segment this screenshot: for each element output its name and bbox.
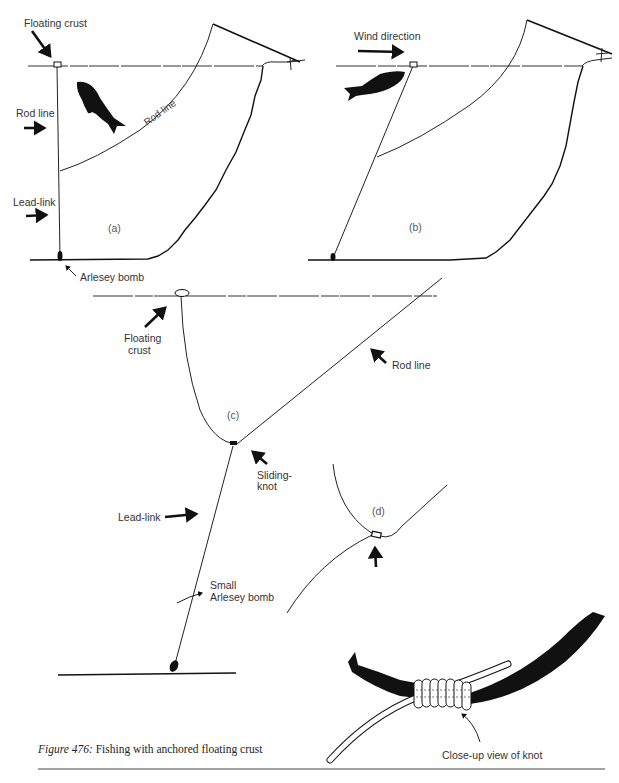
label-lead-link-a: Lead-link <box>13 196 56 208</box>
arrow-small-bomb <box>177 593 202 603</box>
label-small-bomb-2: Arlesey bomb <box>210 591 274 603</box>
fishing-rod-b <box>527 20 612 54</box>
crust-line-d <box>333 464 376 535</box>
panel-label-b: (b) <box>409 221 422 233</box>
floating-crust-icon-a <box>54 62 61 67</box>
fish-silhouette-a <box>77 82 126 134</box>
floating-crust-icon-c <box>175 290 189 297</box>
label-small-bomb-1: Small <box>210 579 236 591</box>
label-floating-crust-c-1: Floating <box>124 332 162 344</box>
arrow-arlesey-bomb-a <box>66 266 76 276</box>
small-arlesey-bomb-icon <box>168 659 180 673</box>
label-lead-link-c: Lead-link <box>118 511 161 523</box>
knot-closeup: Close-up view of knot <box>330 612 605 761</box>
sliding-knot-icon-d <box>371 531 381 538</box>
panel-a: Floating crust Rod line Rod line Lead-li… <box>13 17 305 283</box>
label-rod-line-along-a: Rod line <box>142 97 179 128</box>
panel-label-c: (c) <box>227 409 239 421</box>
arrow-lead-link-c <box>165 514 196 517</box>
lead-link-d <box>287 535 372 613</box>
fishing-diagram: Floating crust Rod line Rod line Lead-li… <box>0 0 619 783</box>
label-rod-line-c: Rod line <box>392 359 431 371</box>
panel-label-a: (a) <box>108 222 121 234</box>
arlesey-bomb-icon-b <box>331 253 336 261</box>
label-closeup-knot: Close-up view of knot <box>442 749 542 761</box>
arrow-wind-direction <box>358 51 402 52</box>
arrow-lead-link-a <box>26 215 46 216</box>
caption-prefix: Figure 476: <box>37 743 93 756</box>
arrow-floating-crust-a <box>32 31 50 56</box>
lake-bed-c <box>58 673 236 675</box>
arrow-closeup-knot <box>462 714 480 742</box>
label-arlesey-bomb-a: Arlesey bomb <box>80 271 144 283</box>
fish-silhouette-b <box>344 71 405 101</box>
label-floating-crust-a: Floating crust <box>24 17 87 29</box>
crust-dropper-c <box>181 296 236 444</box>
knot-coils <box>414 679 471 710</box>
fishing-rod-a <box>213 24 300 62</box>
floating-crust-icon-b <box>410 62 417 67</box>
arrow-knot-d <box>375 548 376 567</box>
bank-top-b <box>582 58 612 66</box>
arrow-rod-line-c <box>372 350 386 363</box>
label-rod-line-a: Rod line <box>16 107 55 119</box>
label-wind-direction: Wind direction <box>354 30 421 42</box>
arrow-sliding-knot <box>253 452 267 464</box>
panel-b: Wind direction (b) <box>308 20 612 261</box>
arrow-floating-crust-c <box>145 308 165 327</box>
lead-link-c <box>175 446 233 664</box>
arlesey-bomb-icon-a <box>58 251 63 261</box>
figure-caption: Figure 476: Fishing with anchored floati… <box>37 743 263 756</box>
bank-slope-a <box>30 66 263 260</box>
label-floating-crust-c-2: crust <box>128 344 151 356</box>
hook-line-white <box>330 664 508 760</box>
lead-link-a <box>57 66 60 258</box>
sliding-knot-icon-c <box>230 441 237 445</box>
label-sliding-knot-2: knot <box>257 480 277 492</box>
panel-label-d: (d) <box>372 505 385 517</box>
caption-text: Fishing with anchored floating crust <box>93 743 263 756</box>
rod-line-d <box>380 485 447 537</box>
panel-c: Floating crust Rod line Sliding- knot Le… <box>58 278 442 675</box>
bank-slope-b <box>308 66 583 260</box>
panel-d: (d) <box>287 464 447 613</box>
main-line-thick <box>348 612 605 704</box>
lead-link-b <box>333 66 413 258</box>
